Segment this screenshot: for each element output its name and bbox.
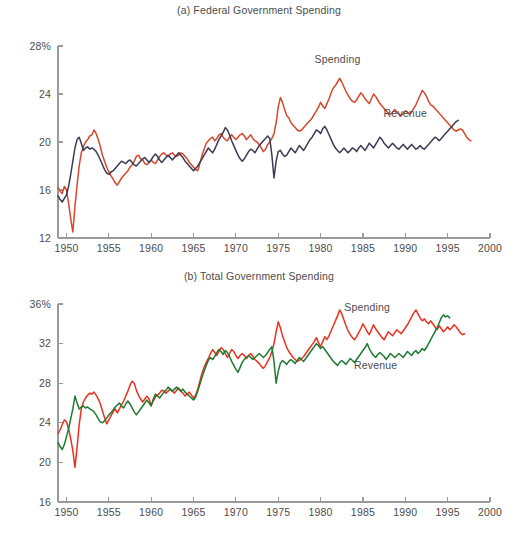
series-line-spending bbox=[58, 310, 465, 467]
x-tick-label: 1980 bbox=[309, 242, 333, 254]
x-tick-label: 1980 bbox=[309, 506, 333, 518]
x-tick-label: 1965 bbox=[181, 242, 205, 254]
x-tick-label: 1970 bbox=[224, 242, 248, 254]
x-tick-label: 1985 bbox=[351, 506, 375, 518]
chart-panel-b: (b) Total Government Spending 1620242832… bbox=[0, 266, 518, 560]
x-tick-label: 1965 bbox=[181, 506, 205, 518]
x-tick-label: 1990 bbox=[393, 242, 417, 254]
y-tick-label: 20 bbox=[39, 456, 51, 468]
x-tick-label: 2000 bbox=[478, 242, 502, 254]
y-tick-label: 36% bbox=[29, 298, 51, 310]
series-annotation-spending: Spending bbox=[315, 53, 361, 65]
x-tick-label: 2000 bbox=[478, 506, 502, 518]
chart-a-svg: 1216202428%19501955196019651970197519801… bbox=[0, 0, 518, 268]
series-line-revenue bbox=[58, 120, 458, 202]
figure-container: (a) Federal Government Spending 12162024… bbox=[0, 0, 518, 560]
chart-panel-a: (a) Federal Government Spending 12162024… bbox=[0, 0, 518, 268]
y-tick-label: 24 bbox=[39, 416, 51, 428]
panel-a-title: (a) Federal Government Spending bbox=[0, 4, 518, 16]
series-annotation-revenue: Revenue bbox=[384, 107, 427, 119]
y-tick-label: 24 bbox=[39, 88, 51, 100]
y-tick-label: 16 bbox=[39, 184, 51, 196]
y-tick-label: 16 bbox=[39, 496, 51, 508]
y-tick-label: 28 bbox=[39, 377, 51, 389]
y-tick-label: 20 bbox=[39, 136, 51, 148]
x-tick-label: 1950 bbox=[54, 242, 78, 254]
y-tick-label: 28% bbox=[29, 40, 51, 52]
x-tick-label: 1985 bbox=[351, 242, 375, 254]
x-tick-label: 1960 bbox=[139, 242, 163, 254]
y-tick-label: 12 bbox=[39, 232, 51, 244]
series-annotation-revenue: Revenue bbox=[354, 359, 397, 371]
x-tick-label: 1950 bbox=[54, 506, 78, 518]
series-line-spending bbox=[58, 78, 471, 232]
x-tick-label: 1975 bbox=[266, 242, 290, 254]
x-tick-label: 1955 bbox=[97, 242, 121, 254]
x-tick-label: 1955 bbox=[97, 506, 121, 518]
x-tick-label: 1990 bbox=[393, 506, 417, 518]
series-annotation-spending: Spending bbox=[344, 301, 390, 313]
x-tick-label: 1995 bbox=[436, 242, 460, 254]
chart-b-svg: 162024283236%195019551960196519701975198… bbox=[0, 266, 518, 560]
x-tick-label: 1995 bbox=[436, 506, 460, 518]
x-tick-label: 1960 bbox=[139, 506, 163, 518]
x-tick-label: 1975 bbox=[266, 506, 290, 518]
x-tick-label: 1970 bbox=[224, 506, 248, 518]
y-tick-label: 32 bbox=[39, 337, 51, 349]
panel-b-title: (b) Total Government Spending bbox=[0, 270, 518, 282]
